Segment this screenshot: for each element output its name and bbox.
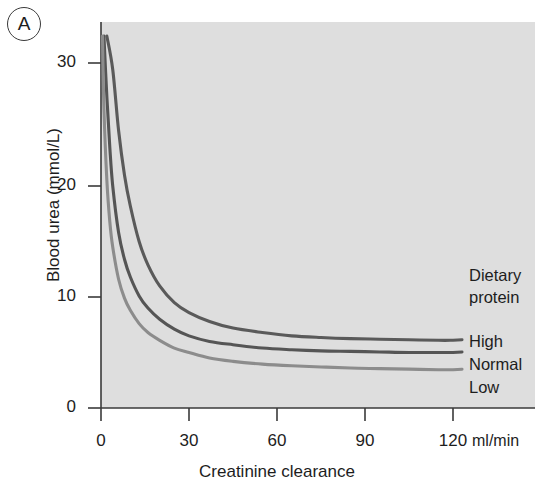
curve-high [107,36,462,340]
legend-title-line2: protein [469,288,519,307]
legend-item-high: High [469,332,503,351]
y-tick-label-20: 20 [30,175,76,195]
x-axis-title: Creatinine clearance [101,462,453,482]
x-tick-label-0: 0 [71,431,131,451]
x-axis-unit-label: ml/min [472,432,519,450]
x-tick-label-60: 60 [247,431,307,451]
figure-panel-a: A Blood urea (mmol/L) Creatinine clearan… [0,0,549,496]
y-tick-label-10: 10 [30,286,76,306]
x-tick-label-30: 30 [159,431,219,451]
curve-low [102,36,462,370]
x-tick-label-90: 90 [335,431,395,451]
curve-normal [104,36,462,352]
y-tick-label-30: 30 [30,52,76,72]
legend-title-line1: Dietary [469,266,521,285]
x-axis-ticks [101,408,453,421]
y-tick-label-0: 0 [30,397,76,417]
y-axis-ticks [88,63,101,408]
legend-item-low: Low [469,378,499,397]
legend-item-normal: Normal [469,355,522,374]
data-curves [102,36,462,370]
plot-svg [0,0,549,496]
